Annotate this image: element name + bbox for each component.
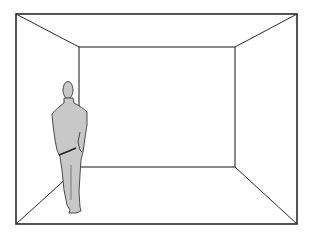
person-head xyxy=(63,82,73,99)
room-illustration: Perspective line drawing of an empty roo… xyxy=(0,0,313,233)
person-figure xyxy=(52,82,87,214)
back-wall xyxy=(79,47,235,167)
ceiling-edge-right xyxy=(235,14,297,47)
person-body xyxy=(52,98,87,213)
ceiling-edge-left xyxy=(16,14,79,47)
room-drawing xyxy=(0,0,313,233)
floor-edge-right xyxy=(235,167,297,224)
